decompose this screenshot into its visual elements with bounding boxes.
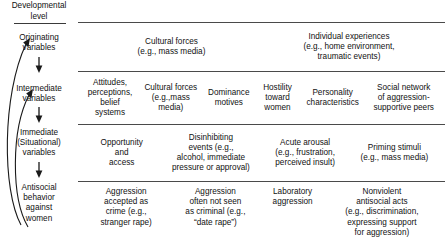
- cell-line: Cultural forces: [141, 83, 201, 93]
- cell-line: toward: [257, 93, 298, 103]
- cell-line: perceived insult): [264, 158, 347, 168]
- cell-line: and: [85, 148, 158, 158]
- cell-line: Opportunity: [85, 138, 158, 148]
- cell-opportunity-and-access: Opportunity and access: [83, 138, 160, 169]
- cell-line: alcohol, immediate: [162, 153, 259, 163]
- cell-line: Priming stimuli: [351, 143, 438, 153]
- cell-hostility-toward-women: Hostility toward women: [255, 83, 300, 114]
- cell-acute-arousal: Acute arousal (e.g., frustration, percei…: [262, 138, 349, 169]
- cell-line: antisocial acts: [326, 197, 438, 207]
- cell-line: (e.g., home environment,: [261, 42, 437, 52]
- cell-line: Acute arousal: [264, 138, 347, 148]
- cell-cultural-forces: Cultural forces (e.g.,mass media): [139, 83, 203, 114]
- cell-line: Aggression: [171, 187, 259, 197]
- cell-line: (e.g., mass media): [351, 153, 438, 163]
- cell-line: (e.g., frustration,: [264, 148, 347, 158]
- cell-line: perceptions,: [83, 88, 137, 98]
- cell-line: belief: [83, 98, 137, 108]
- cell-line: supportive peers: [367, 103, 440, 113]
- cell-line: Attitudes,: [83, 78, 137, 88]
- cell-line: accepted as: [85, 197, 167, 207]
- cell-line: Personality: [302, 88, 363, 98]
- developmental-model-diagram: Developmental level Originating variable…: [0, 0, 445, 246]
- cell-line: (e.g.,mass: [141, 93, 201, 103]
- cell-line: access: [85, 158, 158, 168]
- cell-aggression-accepted-as-crime: Aggression accepted as crime (e.g., stra…: [83, 182, 169, 228]
- cell-aggression-not-seen-as-criminal: Aggression often not seen as criminal (e…: [169, 182, 261, 228]
- cell-disinhibiting-events: Disinhibiting events (e.g., alcohol, imm…: [160, 133, 261, 174]
- cell-line: pressure or approval): [162, 163, 259, 173]
- cell-line: expressing support: [326, 218, 438, 228]
- cell-social-network: Social network of aggression- supportive…: [365, 83, 442, 114]
- cell-individual-experiences: Individual experiences (e.g., home envir…: [259, 32, 439, 63]
- cell-line: often not seen: [171, 197, 259, 207]
- cell-line: “date rape”): [171, 218, 259, 228]
- cell-line: Cultural forces: [86, 37, 257, 47]
- row-antisocial: Aggression accepted as crime (e.g., stra…: [78, 182, 445, 244]
- row-originating: Cultural forces (e.g., mass media) Indiv…: [78, 23, 445, 71]
- cell-line: of aggression-: [367, 93, 440, 103]
- cell-line: traumatic events): [261, 52, 437, 62]
- developmental-level-column: Developmental level Originating variable…: [0, 0, 78, 246]
- cell-line: women: [257, 103, 298, 113]
- cell-attitudes-perceptions-beliefs: Attitudes, perceptions, belief systems: [81, 78, 139, 119]
- cell-personality-characteristics: Personality characteristics: [300, 88, 365, 108]
- cell-cultural-forces: Cultural forces (e.g., mass media): [84, 37, 259, 57]
- curved-feedback-arrow-icon: [0, 0, 78, 246]
- cell-line: systems: [83, 108, 137, 118]
- cell-line: events (e.g.,: [162, 143, 259, 153]
- cell-laboratory-aggression: Laboratory aggression: [262, 182, 324, 207]
- cell-line: Nonviolent: [326, 187, 438, 197]
- cell-line: for aggression): [326, 228, 438, 238]
- cell-line: Social network: [367, 83, 440, 93]
- cell-nonviolent-antisocial-acts: Nonviolent antisocial acts (e.g., discri…: [324, 182, 440, 238]
- cell-line: characteristics: [302, 98, 363, 108]
- row-immediate: Opportunity and access Disinhibiting eve…: [78, 125, 445, 181]
- cell-line: as criminal (e.g.,: [171, 207, 259, 217]
- row-intermediate: Attitudes, perceptions, belief systems C…: [78, 72, 445, 124]
- cell-line: Individual experiences: [261, 32, 437, 42]
- cell-line: media): [141, 103, 201, 113]
- cell-line: aggression: [264, 197, 322, 207]
- cell-line: Disinhibiting: [162, 133, 259, 143]
- cell-line: Hostility: [257, 83, 298, 93]
- cell-line: stranger rape): [85, 218, 167, 228]
- cell-line: crime (e.g.,: [85, 207, 167, 217]
- levels-panel: Cultural forces (e.g., mass media) Indiv…: [78, 0, 445, 246]
- cell-line: (e.g., mass media): [86, 47, 257, 57]
- cell-line: motives: [205, 98, 253, 108]
- cell-priming-stimuli: Priming stimuli (e.g., mass media): [349, 143, 440, 163]
- cell-dominance-motives: Dominance motives: [203, 88, 255, 108]
- cell-line: Dominance: [205, 88, 253, 98]
- cell-line: Laboratory: [264, 187, 322, 197]
- cell-line: Aggression: [85, 187, 167, 197]
- cell-line: (e.g., discrimination,: [326, 207, 438, 217]
